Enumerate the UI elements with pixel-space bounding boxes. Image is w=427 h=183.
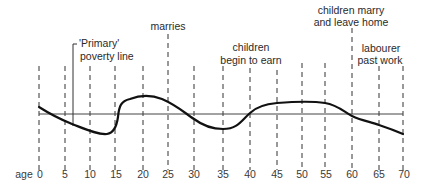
tick-55: 55 <box>320 168 332 180</box>
tick-50: 50 <box>296 168 308 180</box>
tick-20: 20 <box>137 168 149 180</box>
primary-poverty-label-2: poverty line <box>80 50 134 62</box>
children-marry-label-1: children marry <box>318 4 385 16</box>
labourer-label-2: past work <box>358 54 404 66</box>
tick-30: 30 <box>188 168 200 180</box>
tick-15: 15 <box>110 168 122 180</box>
labourer-label-1: labourer <box>362 42 401 54</box>
children-earn-label-2: begin to earn <box>220 54 281 66</box>
primary-poverty-label-1: 'Primary' <box>79 37 119 49</box>
age-axis-label: age <box>15 168 33 180</box>
tick-40: 40 <box>244 168 256 180</box>
tick-60: 60 <box>346 168 358 180</box>
tick-25: 25 <box>162 168 174 180</box>
annotations: 'Primary' poverty line marries children … <box>79 4 403 66</box>
tick-5: 5 <box>62 168 68 180</box>
tick-45: 45 <box>271 168 283 180</box>
poverty-cycle-diagram: 'Primary' poverty line marries children … <box>0 0 427 183</box>
income-curve <box>39 96 403 134</box>
age-axis: age 0 5 10 15 20 25 30 35 40 45 50 55 60… <box>15 168 410 180</box>
children-earn-label-1: children <box>233 41 270 53</box>
tick-35: 35 <box>217 168 229 180</box>
tick-70: 70 <box>398 168 410 180</box>
children-marry-label-2: and leave home <box>314 16 389 28</box>
tick-10: 10 <box>84 168 96 180</box>
tick-0: 0 <box>37 168 43 180</box>
tick-65: 65 <box>373 168 385 180</box>
marries-label: marries <box>150 20 185 32</box>
